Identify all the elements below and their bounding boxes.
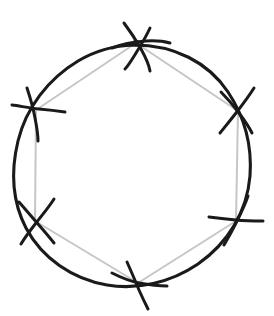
hexagon-construction-figure	[0, 0, 274, 316]
construction-drawing	[0, 0, 274, 316]
figure-background	[0, 0, 274, 316]
top-vertex-dot	[133, 40, 139, 46]
